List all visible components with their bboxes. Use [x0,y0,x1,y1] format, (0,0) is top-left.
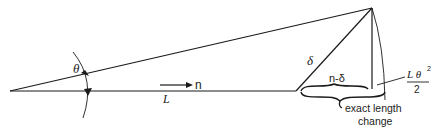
exact-change-brace [301,92,385,101]
n-arrow-label: n [195,78,202,92]
theta-arrowhead-bottom-icon [84,88,92,96]
exact-change-label-line2: change [358,115,393,127]
swing-arc [372,8,385,100]
diagram-canvas: θ n L δ n-δ L θ 2 2 exact length change [0,0,439,137]
approx-leader [377,77,405,85]
delta-label: δ [307,53,314,68]
exact-leader [339,101,342,108]
theta-label: θ [73,61,80,76]
n-delta-brace [301,84,368,91]
approx-numerator: L θ [406,68,422,80]
approx-exponent: 2 [427,65,431,72]
n-arrowhead-icon [186,82,193,88]
n-minus-delta-label: n-δ [329,72,345,84]
L-label: L [162,92,170,106]
rotated-line [10,8,372,91]
approx-denominator: 2 [414,84,420,95]
exact-change-label-line1: exact length [345,102,402,114]
